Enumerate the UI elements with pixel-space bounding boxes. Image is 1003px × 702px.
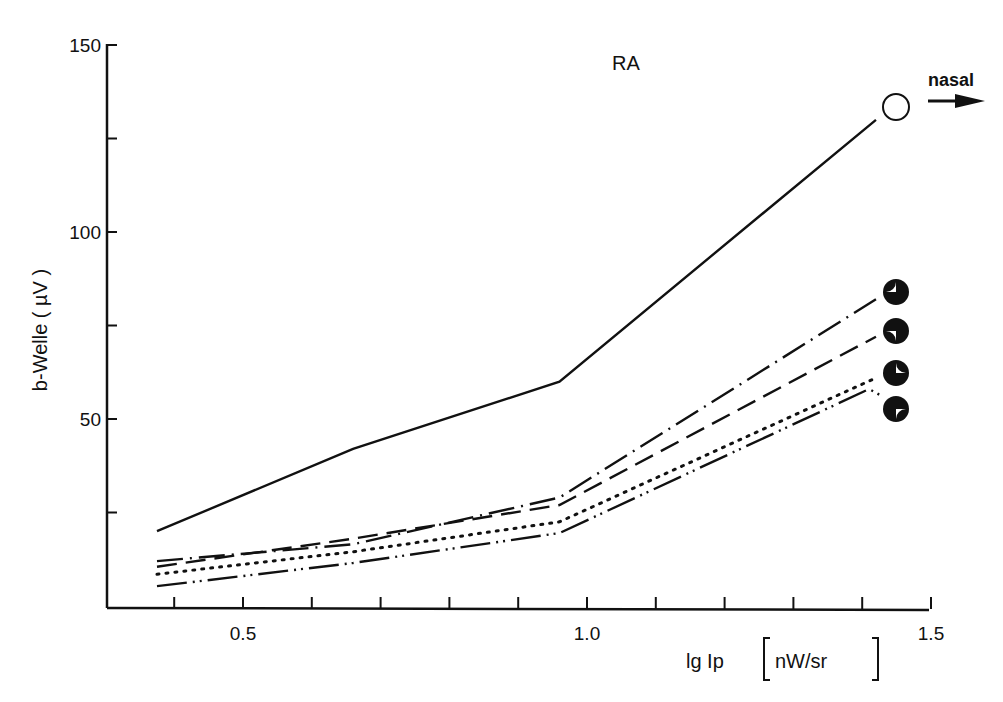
chart: 501001500.51.01.5 RA nasal b-Welle ( µV … xyxy=(0,0,1003,702)
x-tick-label: 0.5 xyxy=(230,623,256,644)
quadrant-lr-marker-icon xyxy=(883,396,909,422)
axis-ticks: 501001500.51.01.5 xyxy=(69,35,944,644)
series-line-dashed xyxy=(157,337,876,567)
axes xyxy=(107,44,929,610)
quadrant-ur-marker-icon xyxy=(883,360,909,386)
open-circle-marker-icon xyxy=(883,94,909,120)
nasal-label: nasal xyxy=(928,70,974,90)
right-bracket xyxy=(872,638,878,680)
quadrant-ul-marker-icon xyxy=(883,279,909,305)
series-line-dotted xyxy=(157,378,876,574)
left-bracket xyxy=(764,638,770,680)
y-tick-label: 150 xyxy=(69,35,101,56)
x-tick-label: 1.0 xyxy=(574,623,600,644)
series-line-dash-dot-dot xyxy=(157,389,880,586)
arrow-right-icon xyxy=(928,94,985,108)
x-axis-title-unit: nW/sr xyxy=(775,650,828,672)
series-line-dash-dot xyxy=(157,299,876,561)
y-tick-label: 50 xyxy=(80,409,101,430)
nasal-annotation: nasal xyxy=(928,70,985,108)
x-axis-title: lg Ip nW/sr xyxy=(686,638,878,680)
x-tick-label: 1.5 xyxy=(918,623,944,644)
y-tick-label: 100 xyxy=(69,222,101,243)
x-axis-title-main: lg Ip xyxy=(686,650,724,672)
chart-title: RA xyxy=(612,52,640,74)
series-markers xyxy=(883,94,909,422)
series-line-solid xyxy=(157,120,876,531)
quadrant-ll-marker-icon xyxy=(883,318,909,344)
data-series xyxy=(157,120,880,586)
y-axis-title: b-Welle ( µV ) xyxy=(29,269,51,391)
